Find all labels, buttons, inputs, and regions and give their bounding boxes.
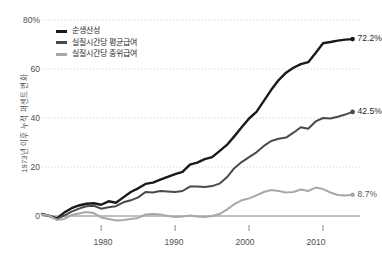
legend-label: 순생산성 [72, 26, 100, 36]
series-lines [42, 39, 353, 220]
legend: 순생산성 실질시간당 평균급여 실질시간당 중위급여 [56, 26, 137, 61]
series-endpoint-markers [350, 37, 355, 197]
series-endpoint-dot [350, 37, 355, 42]
legend-swatch-icon [56, 41, 67, 44]
series-endpoint-dot [350, 110, 355, 115]
series-end-label-average-pay: 42.5% [358, 106, 382, 116]
legend-item-2[interactable]: 실질시간당 중위급여 [56, 49, 137, 60]
legend-label: 실질시간당 중위급여 [72, 49, 137, 59]
legend-swatch-icon [56, 53, 67, 56]
legend-item-1[interactable]: 실질시간당 평균급여 [56, 38, 137, 49]
x-tick-marks [101, 225, 323, 231]
series-end-label-median-pay: 8.7% [358, 189, 377, 199]
legend-item-0[interactable]: 순생산성 [56, 26, 137, 37]
series-endpoint-dot [350, 192, 355, 197]
legend-swatch-icon [56, 30, 67, 33]
series-end-label-productivity: 72.2% [358, 33, 382, 43]
legend-label: 실질시간당 평균급여 [72, 38, 137, 48]
